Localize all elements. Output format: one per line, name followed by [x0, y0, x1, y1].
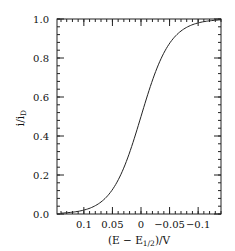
- y-tick-labels: 0.00.20.40.60.81.0: [33, 14, 49, 220]
- x-axis-label: (E − E1/2)/V: [108, 234, 171, 248]
- y-tick-label: 0.4: [33, 131, 49, 142]
- y-tick-label: 0.0: [33, 209, 49, 220]
- y-axis-label: i/iD: [14, 110, 28, 126]
- y-tick-label: 0.6: [33, 92, 49, 103]
- x-tick-label: −0.05: [154, 219, 185, 230]
- x-tick-label: 0.1: [76, 219, 92, 230]
- chart: 0.10.050−0.05−0.1 0.00.20.40.60.81.0 (E …: [0, 0, 235, 251]
- data-series-line: [61, 20, 221, 213]
- x-tick-label: −0.1: [186, 219, 210, 230]
- major-ticks: [57, 19, 221, 214]
- x-tick-label: 0.05: [101, 219, 123, 230]
- x-tick-label: 0: [138, 219, 144, 230]
- y-tick-label: 0.2: [33, 170, 49, 181]
- minor-ticks: [57, 19, 221, 214]
- plot-frame: [57, 19, 221, 214]
- y-tick-label: 1.0: [33, 14, 49, 25]
- x-tick-labels: 0.10.050−0.05−0.1: [76, 219, 210, 230]
- y-tick-label: 0.8: [33, 53, 49, 64]
